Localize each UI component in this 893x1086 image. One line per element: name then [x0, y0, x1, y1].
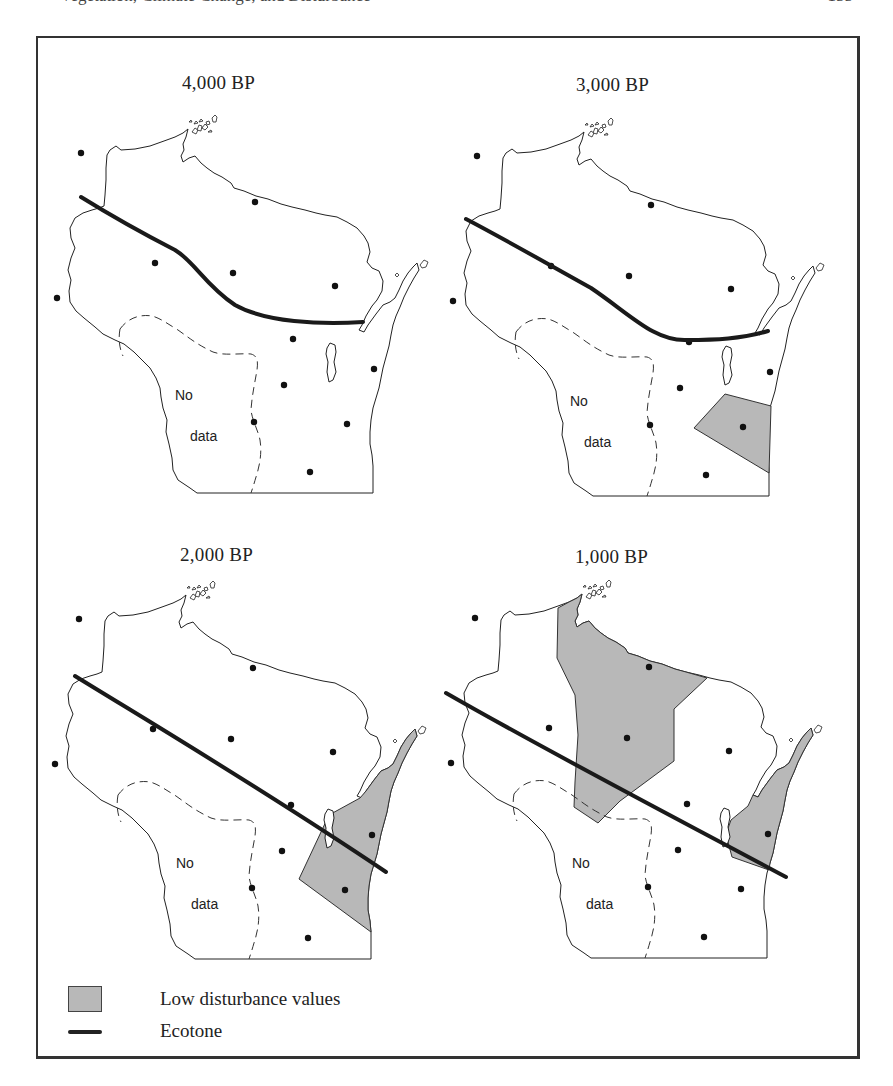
no-data-label: data [586, 896, 613, 912]
map-panel-4000bp: No data [54, 115, 428, 493]
no-data-label: No [572, 855, 590, 871]
no-data-label: data [191, 896, 218, 912]
map-panel-3000bp: No data [450, 118, 824, 496]
map-panel-1000bp: No data [446, 580, 822, 958]
map-figure: No data No data No data [0, 0, 893, 1086]
map-panel-2000bp: No data [52, 581, 426, 959]
legend-label: Low disturbance values [160, 988, 340, 1010]
thick-line-icon [68, 1030, 102, 1034]
lake-winnebago [326, 343, 336, 382]
no-data-label: No [570, 393, 588, 409]
legend-label: Ecotone [160, 1020, 222, 1042]
no-data-label: data [584, 434, 611, 450]
no-data-label: No [175, 387, 193, 403]
gray-swatch-icon [68, 986, 102, 1012]
no-data-label: No [176, 855, 194, 871]
no-data-label: data [190, 428, 217, 444]
